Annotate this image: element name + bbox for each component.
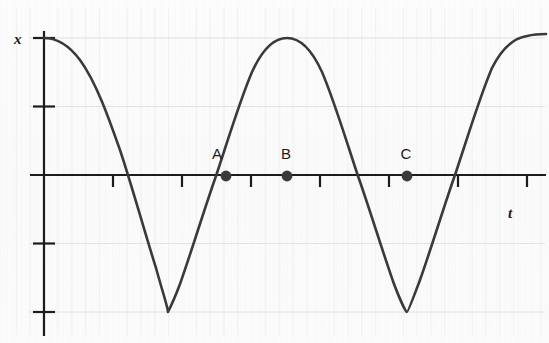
point-a[interactable]: [221, 171, 232, 182]
y-axis-label: x: [13, 31, 22, 47]
point-c[interactable]: [402, 171, 413, 182]
minor-vertical-gridlines: [17, 8, 542, 335]
waveform-curve: [44, 34, 546, 312]
graph-canvas: A B C x t: [0, 0, 549, 343]
point-label-c: C: [401, 145, 412, 162]
displacement-time-graph: A B C x t: [0, 0, 549, 343]
x-axis-ticks: [113, 175, 527, 187]
point-label-b: B: [281, 145, 291, 162]
point-b[interactable]: [282, 171, 293, 182]
x-axis-label: t: [508, 205, 513, 221]
point-label-a: A: [212, 145, 222, 162]
